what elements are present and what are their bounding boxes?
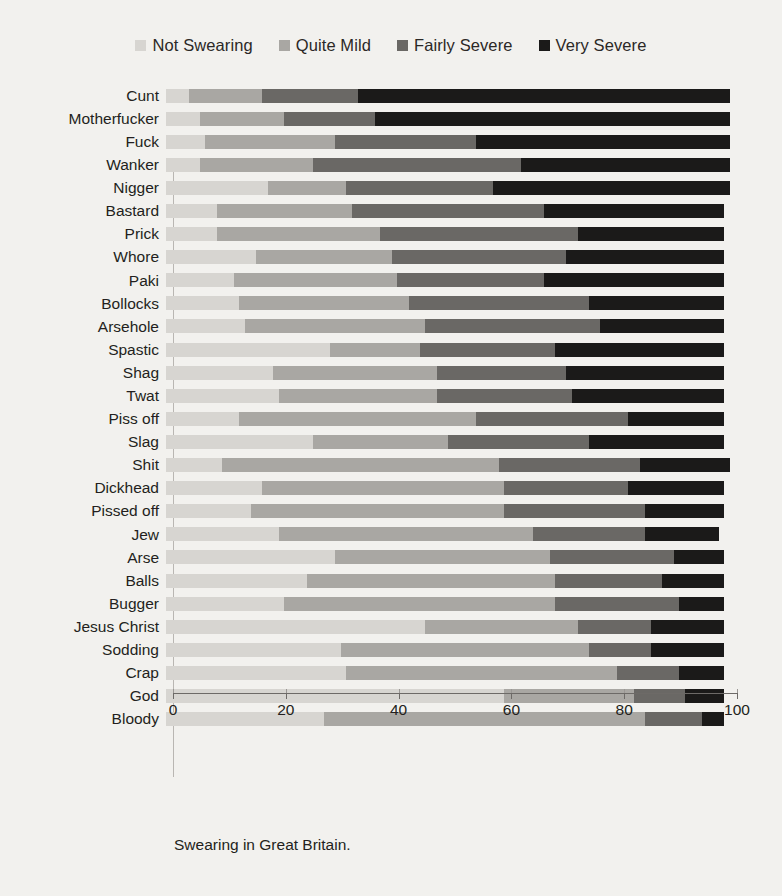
bar-segment-2[interactable] <box>476 412 628 426</box>
bar-segment-1[interactable] <box>200 112 285 126</box>
bar-segment-2[interactable] <box>346 181 493 195</box>
stacked-bar[interactable] <box>166 158 730 172</box>
legend-item-0[interactable]: Not Swearing <box>135 36 252 55</box>
bar-segment-0[interactable] <box>166 112 200 126</box>
bar-segment-1[interactable] <box>217 204 352 218</box>
bar-segment-1[interactable] <box>425 620 577 634</box>
bar-segment-2[interactable] <box>617 666 679 680</box>
bar-segment-1[interactable] <box>307 574 555 588</box>
bar-segment-0[interactable] <box>166 296 239 310</box>
bar-segment-1[interactable] <box>256 250 391 264</box>
bar-segment-1[interactable] <box>268 181 347 195</box>
bar-segment-0[interactable] <box>166 135 205 149</box>
bar-segment-0[interactable] <box>166 481 262 495</box>
bar-segment-0[interactable] <box>166 273 234 287</box>
bar-segment-2[interactable] <box>504 481 628 495</box>
stacked-bar[interactable] <box>166 135 730 149</box>
bar-segment-0[interactable] <box>166 574 307 588</box>
stacked-bar[interactable] <box>166 620 730 634</box>
bar-segment-3[interactable] <box>662 574 724 588</box>
stacked-bar[interactable] <box>166 204 730 218</box>
bar-segment-1[interactable] <box>341 643 589 657</box>
stacked-bar[interactable] <box>166 597 730 611</box>
bar-segment-2[interactable] <box>634 689 685 703</box>
stacked-bar[interactable] <box>166 412 730 426</box>
stacked-bar[interactable] <box>166 319 730 333</box>
bar-segment-0[interactable] <box>166 643 341 657</box>
bar-segment-3[interactable] <box>555 343 724 357</box>
bar-segment-3[interactable] <box>521 158 730 172</box>
stacked-bar[interactable] <box>166 343 730 357</box>
bar-segment-2[interactable] <box>409 296 589 310</box>
bar-segment-2[interactable] <box>448 435 589 449</box>
stacked-bar[interactable] <box>166 712 730 726</box>
bar-segment-3[interactable] <box>640 458 730 472</box>
bar-segment-2[interactable] <box>555 597 679 611</box>
bar-segment-1[interactable] <box>239 296 408 310</box>
stacked-bar[interactable] <box>166 481 730 495</box>
bar-segment-0[interactable] <box>166 227 217 241</box>
bar-segment-1[interactable] <box>189 89 262 103</box>
stacked-bar[interactable] <box>166 643 730 657</box>
bar-segment-3[interactable] <box>685 689 724 703</box>
bar-segment-3[interactable] <box>628 481 724 495</box>
bar-segment-3[interactable] <box>493 181 730 195</box>
bar-segment-2[interactable] <box>533 527 646 541</box>
bar-segment-3[interactable] <box>476 135 730 149</box>
stacked-bar[interactable] <box>166 504 730 518</box>
bar-segment-3[interactable] <box>679 597 724 611</box>
bar-segment-2[interactable] <box>555 574 662 588</box>
bar-segment-0[interactable] <box>166 527 279 541</box>
bar-segment-0[interactable] <box>166 458 222 472</box>
bar-segment-1[interactable] <box>279 527 533 541</box>
bar-segment-0[interactable] <box>166 412 239 426</box>
bar-segment-0[interactable] <box>166 504 251 518</box>
bar-segment-1[interactable] <box>279 389 437 403</box>
stacked-bar[interactable] <box>166 89 730 103</box>
bar-segment-0[interactable] <box>166 319 245 333</box>
bar-segment-0[interactable] <box>166 89 189 103</box>
bar-segment-1[interactable] <box>346 666 617 680</box>
bar-segment-3[interactable] <box>589 435 724 449</box>
bar-segment-3[interactable] <box>600 319 724 333</box>
bar-segment-3[interactable] <box>645 527 718 541</box>
stacked-bar[interactable] <box>166 227 730 241</box>
legend-item-3[interactable]: Very Severe <box>539 36 647 55</box>
bar-segment-0[interactable] <box>166 666 346 680</box>
bar-segment-0[interactable] <box>166 389 279 403</box>
bar-segment-3[interactable] <box>679 666 724 680</box>
stacked-bar[interactable] <box>166 389 730 403</box>
bar-segment-2[interactable] <box>645 712 701 726</box>
legend-item-2[interactable]: Fairly Severe <box>397 36 513 55</box>
bar-segment-3[interactable] <box>628 412 724 426</box>
bar-segment-2[interactable] <box>437 389 572 403</box>
bar-segment-1[interactable] <box>262 481 505 495</box>
bar-segment-3[interactable] <box>375 112 730 126</box>
bar-segment-0[interactable] <box>166 250 256 264</box>
bar-segment-2[interactable] <box>425 319 600 333</box>
bar-segment-1[interactable] <box>222 458 498 472</box>
bar-segment-3[interactable] <box>566 366 724 380</box>
bar-segment-3[interactable] <box>358 89 730 103</box>
bar-segment-0[interactable] <box>166 343 330 357</box>
bar-segment-3[interactable] <box>645 504 724 518</box>
bar-segment-3[interactable] <box>572 389 724 403</box>
stacked-bar[interactable] <box>166 689 730 703</box>
bar-segment-0[interactable] <box>166 689 504 703</box>
bar-segment-2[interactable] <box>550 550 674 564</box>
legend-item-1[interactable]: Quite Mild <box>279 36 371 55</box>
stacked-bar[interactable] <box>166 250 730 264</box>
bar-segment-2[interactable] <box>499 458 640 472</box>
bar-segment-2[interactable] <box>313 158 522 172</box>
stacked-bar[interactable] <box>166 666 730 680</box>
bar-segment-1[interactable] <box>217 227 381 241</box>
stacked-bar[interactable] <box>166 458 730 472</box>
bar-segment-1[interactable] <box>245 319 425 333</box>
bar-segment-2[interactable] <box>437 366 567 380</box>
bar-segment-0[interactable] <box>166 597 284 611</box>
bar-segment-2[interactable] <box>352 204 544 218</box>
bar-segment-3[interactable] <box>702 712 725 726</box>
bar-segment-0[interactable] <box>166 366 273 380</box>
bar-segment-1[interactable] <box>205 135 335 149</box>
bar-segment-2[interactable] <box>578 620 651 634</box>
